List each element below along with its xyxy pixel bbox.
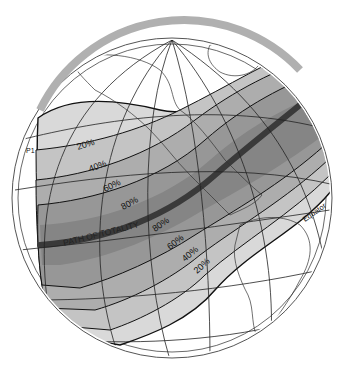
cropped-caption-fragment <box>0 0 180 3</box>
eclipse-globe-map: 20% 40% 60% 80% 80% 60% 40% 20% PATH OF … <box>0 0 346 366</box>
p1-label: P1 <box>26 147 35 154</box>
